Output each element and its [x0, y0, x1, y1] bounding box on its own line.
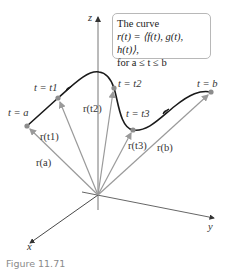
- label-r-t1: r(t1): [40, 132, 59, 143]
- y-axis-label: y: [208, 222, 213, 233]
- curve-definition-box: The curve r(t) = ⟨f(t), g(t), h(t)⟩, for…: [112, 13, 211, 59]
- label-t-t3: t = t3: [126, 109, 149, 120]
- label-t-t1: t = t1: [34, 83, 57, 94]
- x-axis: [30, 195, 98, 243]
- label-r-b: r(b): [157, 143, 173, 154]
- point-t1: [55, 95, 60, 100]
- x-axis-label: x: [27, 242, 32, 253]
- y-axis: [82, 192, 214, 218]
- label-r-t3: r(t3): [128, 141, 147, 152]
- point-t3: [130, 127, 135, 132]
- point-a: [24, 123, 29, 128]
- vector-r-b: [98, 95, 208, 195]
- label-t-b: t = b: [197, 79, 218, 90]
- box-line-3: for a ≤ t ≤ b: [117, 56, 206, 69]
- vector-r-t1: [60, 102, 98, 195]
- point-b: [208, 89, 213, 94]
- label-r-t2: r(t2): [83, 104, 102, 115]
- label-r-a: r(a): [36, 158, 51, 169]
- label-t-t2: t = t2: [118, 79, 141, 90]
- point-t2: [111, 85, 116, 90]
- box-line-1: The curve: [117, 17, 206, 30]
- figure-caption: Figure 11.71: [6, 258, 65, 269]
- direction-arrow-1: [66, 86, 72, 91]
- label-t-a: t = a: [8, 108, 29, 119]
- box-line-2: r(t) = ⟨f(t), g(t), h(t)⟩,: [117, 30, 206, 56]
- z-axis-label: z: [88, 13, 92, 24]
